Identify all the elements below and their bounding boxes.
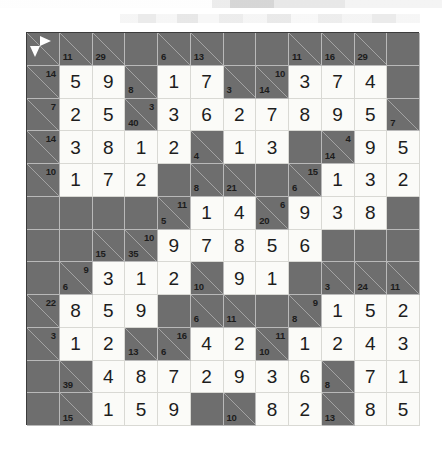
entry-cell[interactable]: 8 — [355, 393, 388, 426]
entry-cell[interactable]: 4 — [191, 328, 224, 361]
entry-cell[interactable]: 5 — [93, 295, 126, 328]
entry-cell[interactable]: 2 — [224, 99, 257, 132]
entry-cell[interactable]: 7 — [93, 164, 126, 197]
entry-cell[interactable]: 2 — [387, 295, 420, 328]
blocked-cell — [256, 164, 289, 197]
entry-cell[interactable]: 1 — [125, 262, 158, 295]
scan-artifact-top-edge — [0, 0, 442, 8]
clue-cell: 13 — [191, 33, 224, 66]
entry-value: 6 — [191, 99, 223, 131]
entry-cell[interactable]: 9 — [158, 393, 191, 426]
entry-cell[interactable]: 3 — [158, 99, 191, 132]
entry-cell[interactable]: 1 — [322, 295, 355, 328]
entry-cell[interactable]: 2 — [387, 164, 420, 197]
clue-cell: 16 — [322, 33, 355, 66]
entry-cell[interactable]: 9 — [93, 66, 126, 99]
entry-cell[interactable]: 8 — [125, 361, 158, 394]
entry-cell[interactable]: 9 — [125, 295, 158, 328]
entry-cell[interactable]: 2 — [191, 361, 224, 394]
entry-cell[interactable]: 1 — [60, 164, 93, 197]
entry-cell[interactable]: 7 — [191, 66, 224, 99]
entry-cell[interactable]: 3 — [289, 66, 322, 99]
entry-cell[interactable]: 5 — [355, 295, 388, 328]
entry-cell[interactable]: 8 — [289, 99, 322, 132]
entry-cell[interactable]: 3 — [256, 131, 289, 164]
entry-cell[interactable]: 1 — [387, 361, 420, 394]
clue-cell: 13 — [322, 393, 355, 426]
entry-cell[interactable]: 8 — [224, 230, 257, 263]
clue-cell: 39 — [60, 361, 93, 394]
entry-cell[interactable]: 2 — [224, 328, 257, 361]
entry-cell[interactable]: 9 — [158, 230, 191, 263]
clue-cell: 3 — [224, 66, 257, 99]
clue-down-value: 13 — [194, 52, 204, 62]
clue-cell: 4 — [191, 131, 224, 164]
entry-cell[interactable]: 2 — [125, 164, 158, 197]
entry-value: 5 — [93, 99, 125, 131]
entry-cell[interactable]: 1 — [125, 131, 158, 164]
entry-cell[interactable]: 7 — [256, 99, 289, 132]
entry-cell[interactable]: 5 — [60, 66, 93, 99]
clue-cell: 10 — [27, 164, 60, 197]
blocked-cell — [322, 230, 355, 263]
entry-cell[interactable]: 1 — [60, 328, 93, 361]
entry-cell[interactable]: 5 — [256, 230, 289, 263]
entry-cell[interactable]: 2 — [93, 328, 126, 361]
entry-cell[interactable]: 7 — [322, 66, 355, 99]
entry-value: 8 — [60, 295, 92, 327]
entry-cell[interactable]: 7 — [355, 361, 388, 394]
entry-cell[interactable]: 6 — [289, 361, 322, 394]
entry-value: 8 — [355, 197, 387, 229]
entry-cell[interactable]: 1 — [289, 328, 322, 361]
entry-cell[interactable]: 3 — [256, 361, 289, 394]
entry-cell[interactable]: 7 — [158, 361, 191, 394]
clue-down-value: 11 — [292, 52, 301, 62]
clue-across-value: 10 — [275, 69, 285, 79]
entry-cell[interactable]: 4 — [355, 66, 388, 99]
entry-cell[interactable]: 3 — [60, 131, 93, 164]
entry-cell[interactable]: 6 — [289, 230, 322, 263]
entry-value: 5 — [387, 393, 419, 425]
entry-cell[interactable]: 9 — [355, 131, 388, 164]
entry-cell[interactable]: 9 — [289, 197, 322, 230]
entry-cell[interactable]: 3 — [93, 262, 126, 295]
entry-cell[interactable]: 4 — [355, 328, 388, 361]
blocked-cell — [93, 197, 126, 230]
entry-value: 2 — [224, 328, 256, 360]
entry-cell[interactable]: 3 — [387, 328, 420, 361]
entry-cell[interactable]: 3 — [322, 197, 355, 230]
clue-cell: 11 — [60, 33, 93, 66]
entry-cell[interactable]: 9 — [224, 361, 257, 394]
entry-cell[interactable]: 2 — [158, 131, 191, 164]
entry-cell[interactable]: 9 — [322, 99, 355, 132]
entry-cell[interactable]: 6 — [191, 99, 224, 132]
entry-cell[interactable]: 4 — [224, 197, 257, 230]
entry-cell[interactable]: 8 — [256, 393, 289, 426]
entry-cell[interactable]: 5 — [355, 99, 388, 132]
entry-cell[interactable]: 5 — [387, 393, 420, 426]
entry-cell[interactable]: 1 — [322, 164, 355, 197]
entry-cell[interactable]: 8 — [60, 295, 93, 328]
entry-cell[interactable]: 5 — [387, 131, 420, 164]
entry-cell[interactable]: 8 — [355, 197, 388, 230]
entry-cell[interactable]: 1 — [93, 393, 126, 426]
entry-value: 1 — [387, 361, 419, 393]
entry-cell[interactable]: 9 — [224, 262, 257, 295]
entry-cell[interactable]: 8 — [93, 131, 126, 164]
entry-cell[interactable]: 1 — [224, 131, 257, 164]
entry-cell[interactable]: 7 — [191, 230, 224, 263]
entry-cell[interactable]: 1 — [158, 66, 191, 99]
clue-across-value: 9 — [84, 265, 89, 275]
entry-cell[interactable]: 1 — [191, 197, 224, 230]
entry-cell[interactable]: 5 — [93, 99, 126, 132]
entry-cell[interactable]: 5 — [125, 393, 158, 426]
entry-cell[interactable]: 3 — [355, 164, 388, 197]
entry-cell[interactable]: 2 — [60, 99, 93, 132]
entry-value: 9 — [289, 197, 321, 229]
entry-cell[interactable]: 1 — [256, 262, 289, 295]
entry-cell[interactable]: 4 — [93, 361, 126, 394]
entry-cell[interactable]: 2 — [289, 393, 322, 426]
entry-cell[interactable]: 2 — [322, 328, 355, 361]
entry-cell[interactable]: 2 — [158, 262, 191, 295]
kakuro-grid[interactable]: 1129613111629145981731014374725340362789… — [26, 32, 419, 425]
